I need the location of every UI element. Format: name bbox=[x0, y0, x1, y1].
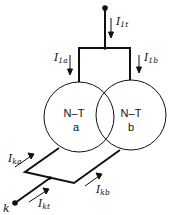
label-node-k: k bbox=[3, 202, 10, 215]
label-Ika: Ika bbox=[7, 152, 21, 166]
arrow-I1a-icon bbox=[68, 55, 73, 75]
label-Ikt: Ikt bbox=[37, 197, 51, 211]
arrow-I1t-icon bbox=[109, 18, 114, 38]
label-I1a: I1a bbox=[53, 51, 68, 65]
transformer-a-sub: a bbox=[73, 121, 80, 133]
transformer-diagram: N–T a N–T b I1t I1a I1b Ika Ikb Ikt k bbox=[0, 0, 171, 215]
arrow-I1b-icon bbox=[137, 55, 142, 73]
label-Ikb: Ikb bbox=[95, 183, 110, 197]
transformer-b-title: N–T bbox=[121, 107, 142, 119]
bottom-bus bbox=[25, 148, 120, 183]
label-I1t: I1t bbox=[115, 15, 129, 29]
label-I1b: I1b bbox=[143, 51, 158, 65]
top-bus bbox=[79, 48, 130, 82]
transformer-b-sub: b bbox=[128, 121, 134, 133]
transformer-a-title: N–T bbox=[64, 107, 85, 119]
bottom-terminal-node bbox=[12, 200, 18, 206]
